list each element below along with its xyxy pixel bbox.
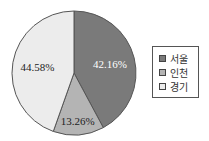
data-label-incheon: 13.26%	[61, 115, 95, 127]
legend: 서울 인천 경기	[152, 46, 199, 98]
legend-label-incheon: 인천	[170, 65, 188, 80]
data-label-seoul: 42.16%	[93, 58, 127, 70]
legend-swatch-seoul	[159, 55, 166, 62]
legend-item-seoul: 서울	[159, 51, 198, 65]
legend-label-seoul: 서울	[170, 51, 188, 66]
data-label-gyeonggi: 44.58%	[20, 61, 54, 73]
legend-item-incheon: 인천	[159, 65, 198, 79]
legend-label-gyeonggi: 경기	[170, 79, 188, 94]
legend-swatch-incheon	[159, 69, 166, 76]
legend-item-gyeonggi: 경기	[159, 79, 198, 93]
legend-swatch-gyeonggi	[159, 83, 166, 90]
